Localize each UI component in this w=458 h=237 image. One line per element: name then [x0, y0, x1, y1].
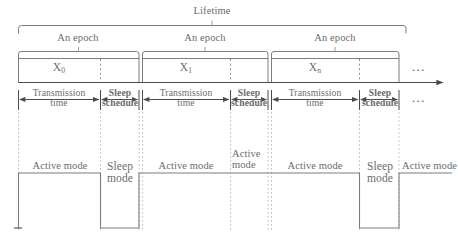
epoch-box-3: [272, 59, 400, 83]
mode-line2: mode: [367, 172, 393, 184]
interval-label-sleep-1: Sleepschedule: [102, 88, 138, 108]
interval-line2: time: [50, 97, 67, 108]
epoch-label-1: An epoch: [57, 33, 98, 44]
mode-label-sleep-1: Sleepmode: [107, 161, 133, 184]
epoch-row-ellipsis: ...: [412, 60, 426, 75]
epoch-brace-1: [19, 47, 140, 59]
interval-label-transmission-1: Transmissiontime: [33, 88, 86, 108]
epoch-brace-2: [143, 47, 269, 59]
interval-label-sleep-3: Sleepschedule: [362, 88, 398, 108]
mode-label-active-5: Active mode: [402, 161, 457, 172]
interval-row-ellipsis: ...: [412, 91, 426, 106]
epoch-label-3: An epoch: [314, 33, 355, 44]
interval-line2: schedule: [102, 97, 138, 108]
mode-line1: Sleep: [367, 160, 393, 172]
epoch-label-2: An epoch: [184, 33, 225, 44]
epoch-box-2: [143, 59, 269, 83]
epoch-value-1-sub: 1: [188, 66, 192, 75]
lifetime-label: Lifetime: [194, 6, 231, 17]
epoch-brace-3: [272, 47, 400, 59]
mode-line1: Sleep: [107, 160, 133, 172]
interval-line2: schedule: [231, 97, 267, 108]
timing-diagram: Lifetime An epoch An epoch An epoch X0 X…: [0, 0, 458, 237]
mode-line2: mode: [232, 159, 256, 170]
interval-label-sleep-2: Sleepschedule: [231, 88, 267, 108]
epoch-box-1: [19, 59, 140, 83]
interval-line2: time: [177, 97, 194, 108]
interval-label-transmission-3: Transmissiontime: [289, 88, 342, 108]
mode-label-active-2: Active mode: [158, 161, 213, 172]
mode-label-active-4: Active mode: [287, 161, 342, 172]
epoch-value-n: Xn: [309, 62, 321, 74]
epoch-value-0-sub: 0: [61, 66, 65, 75]
epoch-value-n-sub: n: [317, 66, 321, 75]
mode-line1: Active: [232, 148, 261, 159]
interval-label-transmission-2: Transmissiontime: [160, 88, 213, 108]
vertical-guides: [19, 112, 400, 232]
mode-label-active-3: Activemode: [232, 149, 261, 170]
interval-line2: schedule: [362, 97, 398, 108]
interval-line2: time: [306, 97, 323, 108]
epoch-value-1: X1: [180, 62, 192, 74]
mode-line2: mode: [107, 172, 133, 184]
mode-label-active-1: Active mode: [32, 161, 87, 172]
mode-label-sleep-2: Sleepmode: [367, 161, 393, 184]
epoch-value-0: X0: [53, 62, 65, 74]
